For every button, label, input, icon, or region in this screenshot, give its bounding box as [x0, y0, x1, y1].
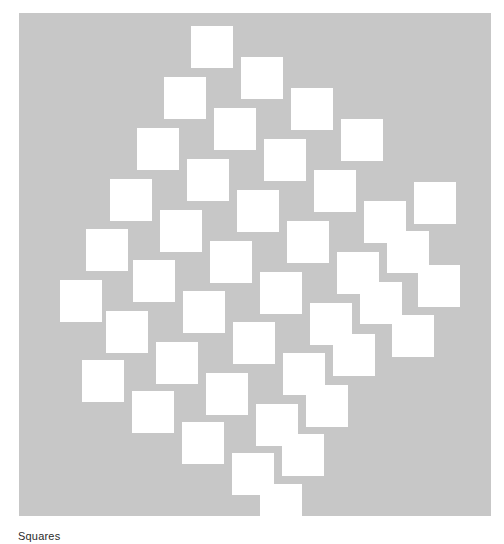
pattern-canvas [19, 13, 491, 516]
lattice-square [341, 119, 383, 161]
lattice-square [182, 422, 224, 464]
lattice-square [237, 190, 279, 232]
lattice-square [418, 265, 460, 307]
lattice-square [333, 334, 375, 376]
lattice-square [314, 170, 356, 212]
lattice-square [132, 391, 174, 433]
lattice-square [82, 360, 124, 402]
lattice-square [233, 322, 275, 364]
lattice-square [287, 221, 329, 263]
lattice-square [60, 280, 102, 322]
lattice-square [291, 88, 333, 130]
lattice-square [260, 484, 302, 516]
lattice-square [156, 342, 198, 384]
lattice-square [264, 139, 306, 181]
lattice-square [260, 272, 302, 314]
lattice-square [392, 315, 434, 357]
lattice-square [133, 260, 175, 302]
figure-root: Squares [0, 0, 504, 544]
lattice-square [210, 241, 252, 283]
lattice-square [191, 26, 233, 68]
lattice-square [160, 210, 202, 252]
lattice-square [306, 385, 348, 427]
lattice-square [282, 434, 324, 476]
lattice-square [110, 179, 152, 221]
lattice-square [214, 108, 256, 150]
lattice-square [241, 57, 283, 99]
lattice-square [164, 77, 206, 119]
lattice-square [414, 182, 456, 224]
lattice-square [86, 229, 128, 271]
lattice-square [183, 291, 225, 333]
lattice-square [106, 311, 148, 353]
lattice-square [137, 128, 179, 170]
lattice-square [206, 373, 248, 415]
lattice-square [187, 159, 229, 201]
figure-caption: Squares [0, 531, 504, 542]
